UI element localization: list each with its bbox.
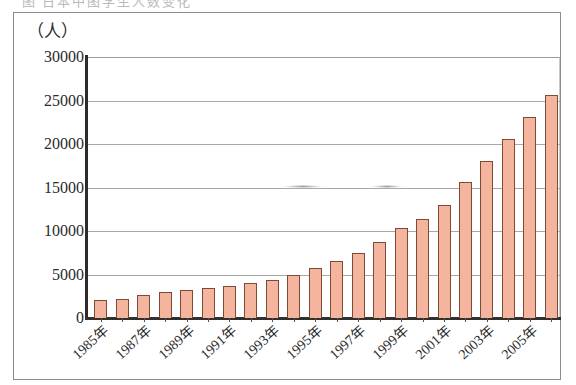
bar: [137, 295, 150, 318]
scan-artifact-2: [372, 185, 402, 188]
bar: [523, 117, 536, 318]
y-axis-tick-label: 5000: [52, 267, 84, 283]
bar: [244, 283, 257, 318]
bar: [330, 261, 343, 318]
bar: [502, 139, 515, 318]
bar: [223, 286, 236, 318]
bar: [116, 299, 129, 318]
y-axis-tick-labels: 050001000015000200002500030000: [18, 0, 84, 385]
x-axis-tick-label: 1989年: [153, 320, 198, 363]
x-axis-tick-label: 1995年: [281, 320, 326, 363]
bar: [373, 242, 386, 318]
bar: [352, 253, 365, 318]
bar: [94, 300, 107, 318]
bar: [180, 290, 193, 318]
cut-off-caption-strip: 图 日本中图学生人数变化: [0, 0, 576, 11]
bar: [545, 95, 558, 318]
x-axis-tick-labels: 1985年1987年1989年1991年1993年1995年1997年1999年…: [88, 318, 568, 384]
scan-artifact-1: [284, 185, 322, 188]
bar: [202, 288, 215, 318]
x-axis-tick-label: 1999年: [367, 320, 412, 363]
bar: [159, 292, 172, 318]
y-axis-tick-label: 15000: [44, 180, 84, 196]
bar: [266, 280, 279, 318]
x-axis-tick-label: 2001年: [410, 320, 455, 363]
y-axis-tick-label: 20000: [44, 136, 84, 152]
y-axis-tick-label: 25000: [44, 93, 84, 109]
y-axis-tick-label: 0: [76, 310, 84, 326]
x-axis-tick-label: 1991年: [195, 320, 240, 363]
x-axis-tick-label: 2003年: [453, 320, 498, 363]
x-axis-tick-label: 2005年: [496, 320, 541, 363]
bar: [287, 275, 300, 319]
bar: [438, 205, 451, 318]
x-axis-tick-label: 1997年: [324, 320, 369, 363]
y-axis-tick-label: 10000: [44, 223, 84, 239]
plot-area: [88, 57, 560, 318]
bar: [309, 268, 322, 319]
bar: [480, 161, 493, 318]
x-axis-tick-label: 1993年: [238, 320, 283, 363]
bar: [416, 219, 429, 318]
bar-series: [88, 57, 560, 318]
y-axis-tick-label: 30000: [44, 49, 84, 65]
x-axis-tick-label: 1987年: [110, 320, 155, 363]
bar: [395, 228, 408, 318]
bar: [459, 182, 472, 318]
